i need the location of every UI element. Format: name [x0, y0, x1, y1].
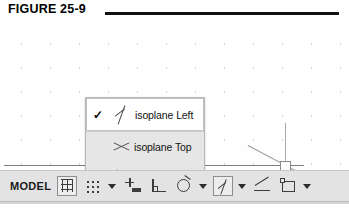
menu-item-isoplane-right[interactable]: isoplane Right [86, 163, 204, 170]
snap-mode-button[interactable] [83, 176, 103, 196]
object-snap-button[interactable] [278, 176, 298, 196]
object-snap-tracking-button[interactable] [252, 176, 272, 196]
isoplane-top-icon [108, 134, 134, 160]
grid-display-button[interactable] [57, 176, 77, 196]
polar-tracking-chevron-down-icon[interactable] [199, 184, 207, 189]
infer-constraints-button[interactable] [122, 176, 142, 196]
menu-separator [86, 131, 204, 132]
model-space-label[interactable]: MODEL [10, 180, 51, 192]
snap-mode-chevron-down-icon[interactable] [108, 184, 116, 189]
figure-header: FIGURE 25-9 [0, 0, 349, 28]
menu-item-label: isoplane Top [134, 141, 192, 153]
menu-item-isoplane-top[interactable]: isoplane Top [86, 131, 204, 163]
isoplane-chevron-down-icon[interactable] [238, 184, 246, 189]
figure-label: FIGURE 25-9 [8, 2, 86, 16]
check-icon: ✓ [87, 109, 109, 121]
figure-rule [105, 12, 339, 15]
status-bar: MODEL [0, 170, 349, 202]
isoplane-left-icon [109, 102, 135, 128]
object-snap-chevron-down-icon[interactable] [303, 184, 311, 189]
isoplane-button[interactable] [213, 176, 233, 196]
menu-item-label: isoplane Left [135, 109, 193, 121]
polar-tracking-button[interactable] [174, 176, 194, 196]
drawing-canvas[interactable]: ✓ isoplane Left isoplane Top isoplane Ri… [0, 28, 349, 170]
ortho-mode-button[interactable] [148, 176, 168, 196]
menu-item-isoplane-left[interactable]: ✓ isoplane Left [86, 98, 204, 131]
isoplane-context-menu[interactable]: ✓ isoplane Left isoplane Top isoplane Ri… [85, 97, 205, 170]
status-bar-underline [0, 202, 349, 204]
pick-box [280, 161, 291, 170]
